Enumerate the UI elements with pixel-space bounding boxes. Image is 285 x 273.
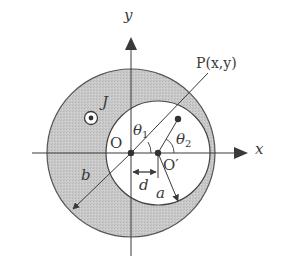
origin-point [128,150,134,156]
cavity-center-label: O′ [163,158,179,173]
cavity-center-point [155,150,161,156]
offset-d-label: d [139,178,149,193]
theta1-subscript: 1 [142,129,148,140]
outer-radius-label: b [81,168,91,183]
theta1-symbol: θ [133,121,142,139]
current-out-of-page-dot [89,116,94,121]
y-axis-label: y [124,8,132,23]
theta2-symbol: θ [176,130,185,148]
point-p [175,116,181,122]
current-density-label: J [102,95,108,110]
theta2-label: θ2 [176,132,191,149]
y-axis-arrow-icon [125,37,137,50]
x-axis-label: x [255,142,263,157]
origin-label: O [110,136,122,151]
inner-radius-label: a [156,186,165,201]
theta2-subscript: 2 [185,138,191,149]
x-axis-arrow-icon [234,147,248,159]
point-p-label: P(x,y) [196,56,237,70]
theta1-label: θ1 [133,123,148,140]
